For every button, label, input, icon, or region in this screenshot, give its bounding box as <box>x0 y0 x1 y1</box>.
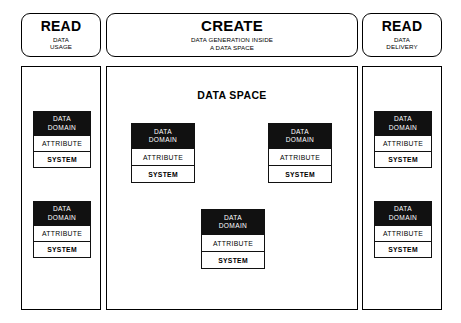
domain-card-header-line1: DATA <box>53 205 71 213</box>
header-subtitle: DATA USAGE <box>50 36 72 52</box>
domain-card-system-row[interactable]: SYSTEM <box>268 166 332 183</box>
header-subtitle: DATA DELIVERY <box>386 36 417 52</box>
domain-card-header-line1: DATA <box>154 128 172 136</box>
domain-card-header: DATA DOMAIN <box>33 111 91 136</box>
header-box-read-data-usage: READ DATA USAGE <box>21 13 101 57</box>
panel-read-data-usage: DATA DOMAIN ATTRIBUTE SYSTEM DATA DOMAIN… <box>21 66 101 310</box>
domain-card-header-line2: DOMAIN <box>219 222 247 230</box>
domain-card-header: DATA DOMAIN <box>374 111 432 136</box>
domain-card-header-line2: DOMAIN <box>389 214 417 222</box>
domain-card-header: DATA DOMAIN <box>33 201 91 226</box>
header-subtitle-line2: A DATA SPACE <box>191 44 273 52</box>
header-subtitle-line1: DATA GENERATION INSIDE <box>191 36 273 44</box>
panel-data-space: DATA SPACE DATA DOMAIN ATTRIBUTE SYSTEM … <box>106 66 358 310</box>
domain-card-header-line2: DOMAIN <box>48 214 76 222</box>
domain-card[interactable]: DATA DOMAIN ATTRIBUTE SYSTEM <box>268 123 332 183</box>
header-subtitle-line2: DELIVERY <box>386 43 417 51</box>
domain-card-header-line1: DATA <box>394 205 412 213</box>
domain-card-header: DATA DOMAIN <box>374 201 432 226</box>
domain-card-attribute-row[interactable]: ATTRIBUTE <box>33 226 91 242</box>
domain-card[interactable]: DATA DOMAIN ATTRIBUTE SYSTEM <box>374 111 432 168</box>
domain-card-header-line2: DOMAIN <box>286 136 314 144</box>
domain-card-header-line1: DATA <box>53 115 71 123</box>
domain-card-system-row[interactable]: SYSTEM <box>374 152 432 168</box>
panel-title-data-space: DATA SPACE <box>107 89 357 101</box>
domain-card-attribute-row[interactable]: ATTRIBUTE <box>268 149 332 166</box>
header-box-read-data-delivery: READ DATA DELIVERY <box>362 13 442 57</box>
header-subtitle-line2: USAGE <box>50 43 72 51</box>
domain-card-header-line1: DATA <box>291 128 309 136</box>
header-subtitle-line1: DATA <box>386 36 417 44</box>
diagram-canvas: READ DATA USAGE DATA DOMAIN ATTRIBUTE SY… <box>0 0 461 323</box>
domain-card-header: DATA DOMAIN <box>131 123 195 149</box>
domain-card-attribute-row[interactable]: ATTRIBUTE <box>201 235 265 252</box>
domain-card-attribute-row[interactable]: ATTRIBUTE <box>374 226 432 242</box>
header-title: READ <box>382 19 422 34</box>
domain-card-system-row[interactable]: SYSTEM <box>131 166 195 183</box>
domain-card-header: DATA DOMAIN <box>268 123 332 149</box>
domain-card-header-line1: DATA <box>394 115 412 123</box>
domain-card-header-line2: DOMAIN <box>48 124 76 132</box>
domain-card[interactable]: DATA DOMAIN ATTRIBUTE SYSTEM <box>33 201 91 258</box>
domain-card[interactable]: DATA DOMAIN ATTRIBUTE SYSTEM <box>33 111 91 168</box>
domain-card[interactable]: DATA DOMAIN ATTRIBUTE SYSTEM <box>131 123 195 183</box>
header-subtitle: DATA GENERATION INSIDE A DATA SPACE <box>191 36 273 52</box>
domain-card-system-row[interactable]: SYSTEM <box>201 252 265 269</box>
domain-card-header-line2: DOMAIN <box>149 136 177 144</box>
domain-card-header-line1: DATA <box>224 214 242 222</box>
domain-card-system-row[interactable]: SYSTEM <box>374 242 432 258</box>
header-title: READ <box>41 19 81 34</box>
header-box-create: CREATE DATA GENERATION INSIDE A DATA SPA… <box>106 13 358 57</box>
domain-card[interactable]: DATA DOMAIN ATTRIBUTE SYSTEM <box>201 209 265 269</box>
domain-card[interactable]: DATA DOMAIN ATTRIBUTE SYSTEM <box>374 201 432 258</box>
domain-card-attribute-row[interactable]: ATTRIBUTE <box>131 149 195 166</box>
header-title: CREATE <box>201 18 263 34</box>
header-subtitle-line1: DATA <box>50 36 72 44</box>
domain-card-header: DATA DOMAIN <box>201 209 265 235</box>
domain-card-header-line2: DOMAIN <box>389 124 417 132</box>
panel-read-data-delivery: DATA DOMAIN ATTRIBUTE SYSTEM DATA DOMAIN… <box>362 66 442 310</box>
domain-card-attribute-row[interactable]: ATTRIBUTE <box>33 136 91 152</box>
domain-card-attribute-row[interactable]: ATTRIBUTE <box>374 136 432 152</box>
domain-card-system-row[interactable]: SYSTEM <box>33 152 91 168</box>
domain-card-system-row[interactable]: SYSTEM <box>33 242 91 258</box>
